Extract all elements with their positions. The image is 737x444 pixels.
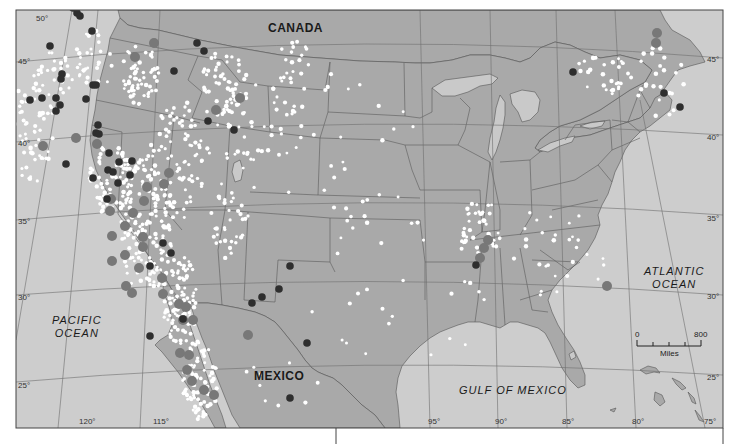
earthquake-small-dot bbox=[344, 206, 348, 210]
earthquake-small-dot bbox=[97, 156, 101, 160]
earthquake-small-dot bbox=[198, 146, 202, 150]
earthquake-small-dot bbox=[237, 69, 241, 73]
earthquake-small-dot bbox=[238, 212, 242, 216]
earthquake-small-dot bbox=[365, 220, 370, 225]
earthquake-small-dot bbox=[157, 71, 161, 75]
earthquake-small-dot bbox=[626, 72, 630, 76]
earthquake-small-dot bbox=[229, 98, 232, 101]
earthquake-small-dot bbox=[172, 339, 176, 343]
earthquake-large-mid-dot bbox=[651, 38, 661, 48]
earthquake-small-dot bbox=[605, 88, 608, 91]
earthquake-small-dot bbox=[276, 404, 280, 408]
earthquake-small-dot bbox=[206, 69, 210, 73]
earthquake-small-dot bbox=[316, 381, 320, 385]
earthquake-small-dot bbox=[136, 83, 139, 86]
earthquake-small-dot bbox=[193, 140, 197, 144]
earthquake-small-dot bbox=[155, 79, 159, 83]
scale-min-label: 0 bbox=[635, 331, 639, 339]
earthquake-small-dot bbox=[162, 225, 166, 229]
earthquake-small-dot bbox=[127, 183, 130, 186]
earthquake-small-dot bbox=[25, 121, 29, 125]
earthquake-large-mid-dot bbox=[127, 288, 137, 298]
earthquake-small-dot bbox=[209, 56, 213, 60]
earthquake-large-dark-dot bbox=[167, 249, 175, 257]
earthquake-small-dot bbox=[449, 292, 453, 296]
earthquake-small-dot bbox=[193, 364, 196, 367]
earthquake-small-dot bbox=[183, 256, 187, 260]
earthquake-small-dot bbox=[147, 95, 150, 98]
earthquake-small-dot bbox=[299, 136, 303, 140]
earthquake-small-dot bbox=[485, 223, 488, 226]
earthquake-small-dot bbox=[228, 218, 231, 221]
earthquake-small-dot bbox=[185, 100, 190, 105]
earthquake-large-dark-dot bbox=[52, 107, 60, 115]
earthquake-small-dot bbox=[575, 246, 579, 250]
earthquake-small-dot bbox=[191, 390, 195, 394]
earthquake-small-dot bbox=[244, 73, 248, 77]
earthquake-large-dark-dot bbox=[126, 171, 134, 179]
earthquake-small-dot bbox=[468, 220, 471, 223]
earthquake-small-dot bbox=[199, 139, 202, 142]
lon-label-80: 80° bbox=[632, 418, 644, 426]
earthquake-small-dot bbox=[192, 408, 195, 411]
earthquake-small-dot bbox=[143, 168, 147, 172]
earthquake-small-dot bbox=[279, 76, 282, 79]
earthquake-large-dark-dot bbox=[103, 195, 111, 203]
earthquake-large-mid-dot bbox=[158, 289, 168, 299]
earthquake-small-dot bbox=[142, 164, 145, 167]
earthquake-small-dot bbox=[620, 60, 623, 63]
earthquake-small-dot bbox=[51, 67, 56, 72]
earthquake-small-dot bbox=[161, 250, 165, 254]
earthquake-small-dot bbox=[187, 177, 191, 181]
earthquake-small-dot bbox=[71, 78, 74, 81]
earthquake-small-dot bbox=[576, 238, 580, 242]
earthquake-small-dot bbox=[285, 152, 288, 155]
earthquake-small-dot bbox=[290, 60, 295, 65]
earthquake-small-dot bbox=[18, 105, 21, 108]
earthquake-small-dot bbox=[151, 240, 155, 244]
lon-label-90: 90° bbox=[495, 418, 507, 426]
earthquake-small-dot bbox=[121, 190, 126, 195]
earthquake-small-dot bbox=[30, 151, 35, 156]
earthquake-small-dot bbox=[139, 278, 144, 283]
earthquake-large-dark-dot bbox=[204, 117, 212, 125]
earthquake-small-dot bbox=[123, 163, 126, 166]
earthquake-small-dot bbox=[240, 204, 244, 208]
earthquake-large-mid-dot bbox=[38, 141, 48, 151]
earthquake-small-dot bbox=[163, 193, 167, 197]
earthquake-small-dot bbox=[639, 87, 643, 91]
earthquake-small-dot bbox=[277, 153, 281, 157]
earthquake-small-dot bbox=[537, 262, 541, 266]
earthquake-small-dot bbox=[59, 67, 63, 71]
scale-max-label: 800 bbox=[694, 331, 707, 339]
earthquake-small-dot bbox=[37, 88, 41, 92]
earthquake-small-dot bbox=[464, 343, 467, 346]
earthquake-small-dot bbox=[300, 105, 304, 109]
earthquake-small-dot bbox=[199, 377, 203, 381]
earthquake-small-dot bbox=[475, 203, 478, 206]
earthquake-small-dot bbox=[583, 60, 586, 63]
earthquake-small-dot bbox=[37, 138, 40, 141]
earthquake-large-mid-dot bbox=[107, 231, 117, 241]
label-atlantic-line2: OCEAN bbox=[644, 278, 704, 291]
earthquake-small-dot bbox=[448, 337, 451, 340]
earthquake-small-dot bbox=[153, 187, 157, 191]
earthquake-small-dot bbox=[223, 198, 227, 202]
earthquake-small-dot bbox=[202, 70, 206, 74]
earthquake-small-dot bbox=[189, 396, 192, 399]
lat-label-25-right: 25° bbox=[707, 374, 719, 382]
earthquake-small-dot bbox=[377, 104, 381, 108]
earthquake-small-dot bbox=[191, 268, 194, 271]
earthquake-small-dot bbox=[602, 263, 605, 266]
earthquake-small-dot bbox=[150, 89, 154, 93]
earthquake-small-dot bbox=[153, 209, 157, 213]
earthquake-small-dot bbox=[186, 296, 190, 300]
earthquake-small-dot bbox=[192, 396, 196, 400]
earthquake-small-dot bbox=[597, 278, 600, 281]
earthquake-small-dot bbox=[288, 361, 291, 364]
earthquake-small-dot bbox=[51, 136, 55, 140]
earthquake-small-dot bbox=[487, 204, 491, 208]
earthquake-small-dot bbox=[270, 124, 274, 128]
earthquake-small-dot bbox=[245, 152, 249, 156]
earthquake-small-dot bbox=[130, 227, 133, 230]
